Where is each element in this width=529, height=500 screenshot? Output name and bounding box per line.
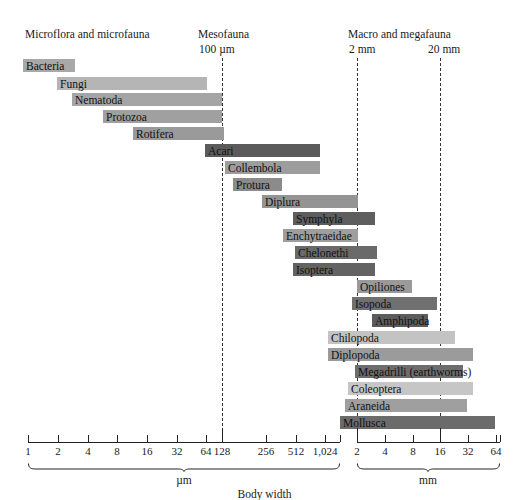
axis-tick — [413, 435, 414, 442]
axis-tick-label: 128 — [214, 445, 231, 457]
taxon-label: Rotifera — [136, 127, 174, 140]
boundary-tick — [440, 428, 441, 435]
taxon-bar-row: Isopoda — [352, 297, 437, 310]
unit-label-micrometers: µm — [176, 474, 192, 486]
axis-tick-label: 16 — [435, 445, 446, 457]
millimeter-axis-cap — [500, 435, 501, 442]
axis-tick — [468, 435, 469, 442]
axis-title: Body width — [0, 488, 529, 500]
axis-tick-label: 1 — [25, 445, 31, 457]
axis-tick-label: 4 — [85, 445, 91, 457]
taxon-bar-row: Protura — [233, 178, 282, 191]
taxon-label: Opiliones — [360, 280, 405, 293]
taxon-bar-row: Fungi — [57, 77, 207, 90]
axis-tick-label: 8 — [410, 445, 416, 457]
taxon-label: Enchytraeidae — [286, 229, 352, 242]
taxon-bar-row: Mollusca — [340, 416, 495, 429]
micrometer-axis-cap — [340, 435, 341, 442]
axis-tick — [147, 435, 148, 442]
axis-tick — [28, 435, 29, 442]
taxon-bar-row: Collembola — [225, 161, 320, 174]
taxon-label: Fungi — [60, 77, 87, 90]
x-axis: 12481632641282565121,024248163264 µm mm … — [0, 432, 529, 500]
millimeter-axis-line — [357, 442, 500, 443]
axis-tick-label: 64 — [491, 445, 502, 457]
axis-tick — [325, 435, 326, 442]
axis-tick — [296, 435, 297, 442]
taxon-label: Coleoptera — [351, 382, 401, 395]
axis-tick — [117, 435, 118, 442]
taxon-bar-row: Amphipoda — [372, 314, 428, 327]
taxon-bar-row: Bacteria — [23, 59, 75, 72]
taxon-label: Protura — [236, 178, 270, 191]
taxon-label: Nematoda — [75, 93, 122, 106]
axis-tick-label: 2 — [354, 445, 360, 457]
boundary-tick — [222, 428, 223, 435]
taxon-label: Isopoda — [355, 297, 391, 310]
taxon-bar-row: Diplopoda — [328, 348, 473, 361]
taxon-label: Collembola — [228, 161, 282, 174]
axis-tick-label: 16 — [142, 445, 153, 457]
micrometer-axis-line — [28, 442, 340, 443]
brace-micrometers — [28, 463, 340, 472]
axis-tick-label: 8 — [114, 445, 120, 457]
taxon-label: Diplopoda — [331, 348, 380, 361]
axis-tick-label: 32 — [463, 445, 474, 457]
taxon-bar-row: Protozoa — [103, 110, 222, 123]
taxon-label: Amphipoda — [375, 314, 429, 327]
taxon-bar-row: Chelonethi — [295, 246, 377, 259]
taxon-label: Chilopoda — [331, 331, 379, 344]
taxon-bar-row: Coleoptera — [348, 382, 473, 395]
taxon-bar-row: Nematoda — [72, 93, 222, 106]
taxon-bar-row: Enchytraeidae — [283, 229, 358, 242]
axis-tick — [88, 435, 89, 442]
taxon-label: Protozoa — [106, 110, 147, 123]
taxon-label: Acari — [208, 144, 234, 157]
taxon-label: Symphyla — [296, 212, 343, 225]
axis-tick — [440, 435, 441, 442]
axis-tick-label: 256 — [258, 445, 275, 457]
taxon-bar-row: Isoptera — [293, 263, 375, 276]
axis-tick-label: 512 — [288, 445, 305, 457]
axis-tick — [222, 435, 223, 442]
taxon-bar-row: Opiliones — [357, 280, 412, 293]
taxon-label: Chelonethi — [298, 246, 348, 259]
boundary-tick — [357, 428, 358, 435]
taxon-bar-row: Symphyla — [293, 212, 375, 225]
axis-tick — [385, 435, 386, 442]
taxon-label: Diplura — [265, 195, 300, 208]
axis-tick-label: 64 — [201, 445, 212, 457]
axis-tick — [357, 435, 358, 442]
taxon-bar-row: Chilopoda — [328, 331, 455, 344]
axis-tick-label: 32 — [172, 445, 183, 457]
unit-label-millimeters: mm — [419, 474, 437, 486]
taxon-label: Isoptera — [296, 263, 333, 276]
taxon-bar-row: Diplura — [262, 195, 358, 208]
taxon-label: Megadrilli (earthworms) — [358, 365, 471, 378]
axis-tick — [206, 435, 207, 442]
soil-fauna-body-width-chart: Microflora and microfauna Mesofauna 100 … — [0, 0, 529, 500]
taxon-label: Araneida — [348, 399, 390, 412]
taxon-label: Bacteria — [26, 59, 64, 72]
axis-tick-label: 1,024 — [313, 445, 338, 457]
axis-tick — [177, 435, 178, 442]
axis-tick-label: 2 — [55, 445, 61, 457]
axis-tick — [266, 435, 267, 442]
axis-tick — [496, 435, 497, 442]
taxon-label: Mollusca — [343, 416, 386, 429]
taxon-bar-row: Megadrilli (earthworms) — [355, 365, 463, 378]
taxon-bar-row: Rotifera — [133, 127, 224, 140]
brace-millimeters — [357, 463, 500, 472]
axis-tick-label: 4 — [382, 445, 388, 457]
bars-layer: BacteriaFungiNematodaProtozoaRotiferaAca… — [0, 0, 529, 440]
taxon-bar-row: Araneida — [345, 399, 467, 412]
taxon-bar-row: Acari — [205, 144, 320, 157]
axis-tick — [58, 435, 59, 442]
